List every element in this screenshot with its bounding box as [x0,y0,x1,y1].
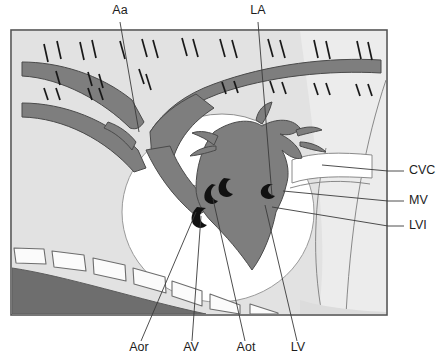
label-AV: AV [183,340,199,354]
label-Aor: Aor [129,340,148,354]
label-Aot: Aot [237,340,256,354]
label-CVC: CVC [409,163,435,177]
label-Aa: Aa [112,3,127,17]
figure-root: Aa LA CVC MV LVI Aor AV Aot LV [0,0,442,358]
label-MV: MV [409,193,428,207]
panel-content [12,31,386,314]
label-LV: LV [291,340,306,354]
anatomical-diagram: Aa LA CVC MV LVI Aor AV Aot LV [0,0,442,358]
vertebra-body [14,248,46,264]
label-LA: LA [250,3,266,17]
label-LVI: LVI [409,218,427,232]
